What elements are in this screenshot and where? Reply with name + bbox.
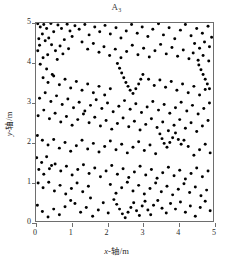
scatter-point: [98, 151, 101, 154]
scatter-point: [137, 140, 140, 143]
scatter-point: [69, 86, 72, 89]
scatter-point: [70, 187, 73, 190]
scatter-point: [118, 67, 121, 70]
scatter-point: [193, 42, 196, 45]
scatter-point: [180, 101, 183, 104]
scatter-point: [75, 80, 78, 83]
scatter-point: [141, 204, 144, 207]
scatter-point: [47, 37, 50, 40]
scatter-point: [161, 207, 164, 210]
scatter-point: [149, 143, 152, 146]
scatter-point: [130, 23, 133, 26]
scatter-point: [60, 27, 63, 30]
scatter-points-layer: [36, 23, 213, 221]
scatter-point: [205, 189, 208, 192]
scatter-point: [136, 32, 139, 35]
scatter-point: [157, 23, 160, 25]
scatter-point: [182, 182, 185, 185]
scatter-point: [190, 121, 193, 124]
y-axis-tick: [32, 183, 36, 184]
scatter-point: [50, 164, 53, 167]
scatter-point: [52, 30, 55, 33]
scatter-point: [100, 107, 103, 110]
scatter-point: [37, 114, 40, 117]
scatter-point: [203, 41, 206, 44]
scatter-point: [61, 52, 64, 55]
plot-area: [35, 22, 214, 222]
scatter-point: [86, 147, 89, 150]
scatter-point: [173, 124, 176, 127]
scatter-point: [157, 109, 160, 112]
scatter-point: [126, 181, 129, 184]
scatter-point: [120, 186, 123, 189]
scatter-point: [42, 173, 45, 176]
x-axis-tick-label: 3: [133, 228, 151, 237]
scatter-point: [181, 82, 184, 85]
scatter-point: [64, 78, 67, 81]
scatter-point: [69, 199, 72, 202]
scatter-point: [171, 193, 174, 196]
scatter-point: [182, 48, 185, 51]
scatter-point: [42, 186, 45, 189]
scatter-point: [124, 216, 127, 219]
scatter-point: [110, 164, 113, 167]
scatter-point: [135, 209, 138, 212]
scatter-point: [146, 208, 149, 211]
scatter-point: [184, 127, 187, 130]
scatter-point: [202, 73, 205, 76]
scatter-point: [163, 142, 166, 145]
scatter-point: [126, 151, 129, 154]
scatter-point: [156, 126, 159, 129]
scatter-point: [81, 190, 84, 193]
scatter-point: [195, 27, 198, 30]
scatter-point: [56, 58, 59, 61]
scatter-point: [175, 89, 178, 92]
scatter-point: [73, 202, 76, 205]
scatter-point: [105, 119, 108, 122]
scatter-point: [115, 26, 118, 29]
x-axis-tick: [143, 223, 144, 227]
scatter-point: [201, 32, 204, 35]
y-axis-tick-label: 4: [13, 57, 31, 66]
scatter-point: [106, 102, 109, 105]
scatter-point: [47, 81, 50, 84]
scatter-point: [122, 117, 125, 120]
scatter-point: [207, 25, 210, 28]
scatter-point: [136, 53, 139, 56]
scatter-point: [146, 35, 149, 38]
scatter-point: [185, 109, 188, 112]
scatter-point: [112, 110, 115, 113]
scatter-point: [140, 111, 143, 114]
scatter-point: [69, 150, 72, 153]
scatter-point: [177, 138, 180, 141]
scatter-point: [178, 169, 181, 172]
x-axis-title: xx-轴/m-轴/m: [0, 244, 233, 256]
scatter-point: [66, 98, 69, 101]
x-axis-tick-label: 5: [205, 228, 223, 237]
scatter-point: [71, 124, 74, 127]
scatter-point: [209, 151, 212, 154]
scatter-point: [49, 100, 52, 103]
scatter-point: [69, 29, 72, 32]
scatter-point: [66, 23, 69, 26]
scatter-point: [85, 206, 88, 209]
scatter-point: [127, 176, 130, 179]
scatter-point: [169, 202, 172, 205]
x-axis-tick-label: 1: [62, 228, 80, 237]
scatter-point: [64, 205, 67, 208]
scatter-point: [150, 117, 153, 120]
scatter-point: [71, 35, 74, 38]
scatter-point: [109, 183, 112, 186]
scatter-point: [179, 29, 182, 32]
scatter-point: [109, 140, 112, 143]
scatter-point: [170, 80, 173, 83]
scatter-point: [160, 190, 163, 193]
scatter-point: [99, 175, 102, 178]
scatter-point: [98, 51, 101, 54]
scatter-point: [158, 132, 161, 135]
scatter-point: [116, 122, 119, 125]
scatter-point: [78, 28, 81, 31]
scatter-point: [192, 85, 195, 88]
scatter-point: [127, 85, 130, 88]
scatter-point: [165, 185, 168, 188]
